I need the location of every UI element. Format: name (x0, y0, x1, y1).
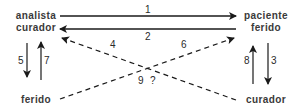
node-paciente-ferido-line2: ferido (240, 22, 292, 34)
edge-label-5: 5 (18, 56, 24, 66)
edge-label-8: 8 (244, 56, 250, 66)
node-analista-curador: analista curador (14, 10, 58, 34)
edge-label-3: 3 (271, 56, 277, 66)
edge-label-1: 1 (145, 5, 151, 15)
edge-label-2: 2 (145, 32, 151, 42)
node-paciente-ferido: paciente ferido (240, 10, 292, 34)
node-ferido: ferido (16, 94, 56, 106)
edge-4-dashed-arrow (62, 38, 236, 100)
edge-label-6: 6 (181, 40, 187, 50)
node-analista-curador-line1: analista (14, 10, 58, 22)
node-analista-curador-line2: curador (14, 22, 58, 34)
node-curador-label: curador (246, 94, 286, 105)
node-curador: curador (240, 94, 292, 106)
edge-label-7: 7 (44, 56, 50, 66)
edge-label-4: 4 (110, 40, 116, 50)
edge-label-9: 9 (138, 76, 144, 86)
edge-label-question: ? (150, 76, 156, 86)
node-paciente-ferido-line1: paciente (240, 10, 292, 22)
node-ferido-label: ferido (21, 94, 51, 105)
